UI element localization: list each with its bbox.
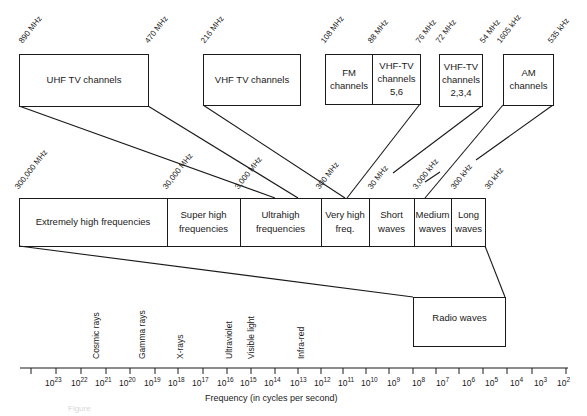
tick-label: 1019 <box>144 376 161 388</box>
segment-uhf-label: Ultrahigh <box>261 208 299 222</box>
axis-xlabel: Frequency (in cycles per second) <box>205 393 338 403</box>
vhf-tv-box: VHF TV channels <box>203 54 301 106</box>
tick-label: 103 <box>534 376 547 388</box>
segment-ehf-label: Extremely high frequencies <box>36 215 151 229</box>
fm-sublabel: channels <box>330 80 368 93</box>
segment-medium-sublabel: waves <box>419 222 446 236</box>
tick-label: 1020 <box>119 376 136 388</box>
radio-waves-box: Radio waves <box>413 297 506 347</box>
fm-label: FM <box>342 67 356 80</box>
segment-shf: Super high frequencies <box>167 198 240 246</box>
label-cosmic-rays: Cosmic rays <box>91 312 101 359</box>
segment-ehf: Extremely high frequencies <box>19 198 167 246</box>
segment-vhf-sublabel: freq. <box>335 222 354 236</box>
tick-label: 107 <box>436 376 449 388</box>
vhf-tv-56-box: VHF-TV channels 5,6 <box>372 54 421 105</box>
tick-label: 109 <box>387 376 400 388</box>
segment-shf-label: Super high <box>181 208 227 222</box>
tick-label: 1018 <box>168 376 185 388</box>
tick-label: 108 <box>412 376 425 388</box>
uhf-tv-label: UHF TV channels <box>47 74 122 87</box>
vhf-tv-label: VHF TV channels <box>215 74 289 87</box>
figure-caption: Figure <box>68 404 91 413</box>
label-visible-light: Visible light <box>246 316 256 359</box>
label-infra-red: Infra-red <box>296 327 306 359</box>
label-ultraviolet: Ultraviolet <box>224 321 234 359</box>
segment-short-sublabel: waves <box>378 222 405 236</box>
label-gamma-rays: Gamma rays <box>137 310 147 359</box>
segment-long-label: Long <box>458 208 479 222</box>
tick-label: 1016 <box>217 376 234 388</box>
tick-label: 105 <box>485 376 498 388</box>
tick-label: 1021 <box>95 376 112 388</box>
fm-box: FM channels <box>325 54 373 105</box>
tick-label: 1014 <box>264 376 281 388</box>
tick-label: 1010 <box>361 376 378 388</box>
am-box: AM channels <box>503 54 554 106</box>
vhf56-label: VHF-TV <box>379 60 413 73</box>
tick-label: 1022 <box>71 376 88 388</box>
label-x-rays: X-rays <box>175 334 185 359</box>
tick-label: 1012 <box>314 376 331 388</box>
tick-label: 102 <box>557 376 570 388</box>
vhf234-label: VHF-TV <box>444 61 478 74</box>
segment-uhf-sublabel: frequencies <box>256 222 305 236</box>
segment-medium: Medium waves <box>414 198 451 246</box>
radio-waves-label: Radio waves <box>432 312 486 325</box>
tick-label: 104 <box>510 376 523 388</box>
vhf234-channels: 2,3,4 <box>450 87 471 100</box>
segment-short: Short waves <box>369 198 414 246</box>
segment-vhf-label: Very high <box>325 208 365 222</box>
uhf-tv-box: UHF TV channels <box>19 54 149 107</box>
segment-shf-sublabel: frequencies <box>179 222 228 236</box>
vhf56-sublabel: channels <box>377 73 415 86</box>
segment-long-sublabel: waves <box>455 222 482 236</box>
am-sublabel: channels <box>509 80 547 93</box>
segment-medium-label: Medium <box>416 208 450 222</box>
am-label: AM <box>521 67 535 80</box>
tick-label: 1017 <box>192 376 209 388</box>
tick-label: 1015 <box>240 376 257 388</box>
tick-label: 1023 <box>45 376 62 388</box>
segment-short-label: Short <box>380 208 403 222</box>
segment-vhf: Very high freq. <box>321 198 369 246</box>
vhf-tv-234-box: VHF-TV channels 2,3,4 <box>439 54 483 107</box>
segment-long: Long waves <box>451 198 486 246</box>
tick-label: 1011 <box>338 376 354 388</box>
segment-uhf: Ultrahigh frequencies <box>240 198 321 246</box>
tick-label: 1013 <box>290 376 307 388</box>
vhf56-channels: 5,6 <box>390 86 403 99</box>
vhf234-sublabel: channels <box>442 74 480 87</box>
tick-label: 106 <box>462 376 475 388</box>
